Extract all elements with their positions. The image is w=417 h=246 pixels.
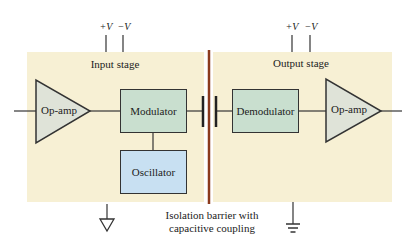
oscillator-block: Oscillator xyxy=(120,150,187,194)
oscillator-label: Oscillator xyxy=(132,166,175,178)
input-stage-title: Input stage xyxy=(91,58,140,70)
output-plus-v-label: +V xyxy=(286,21,299,32)
demodulator-label: Demodulator xyxy=(236,105,294,117)
output-opamp-label: Op-amp xyxy=(331,103,367,115)
input-minus-v-label: −V xyxy=(118,21,131,32)
input-plus-v-label: +V xyxy=(100,21,113,32)
barrier-caption: Isolation barrier with capacitive coupli… xyxy=(166,209,259,235)
modulator-block: Modulator xyxy=(120,89,187,133)
isolation-amplifier-diagram: +V −V +V −V Input stage Output stage Op-… xyxy=(0,0,417,246)
output-stage-title: Output stage xyxy=(273,57,329,69)
output-minus-v-label: −V xyxy=(305,21,318,32)
modulator-label: Modulator xyxy=(130,105,176,117)
input-opamp-label: Op-amp xyxy=(41,104,77,116)
earth-ground-icon xyxy=(286,202,300,232)
barrier-caption-line1: Isolation barrier with xyxy=(166,209,259,222)
demodulator-block: Demodulator xyxy=(232,89,299,133)
barrier-caption-line2: capacitive coupling xyxy=(166,222,259,235)
ground-triangle-icon xyxy=(100,204,114,231)
